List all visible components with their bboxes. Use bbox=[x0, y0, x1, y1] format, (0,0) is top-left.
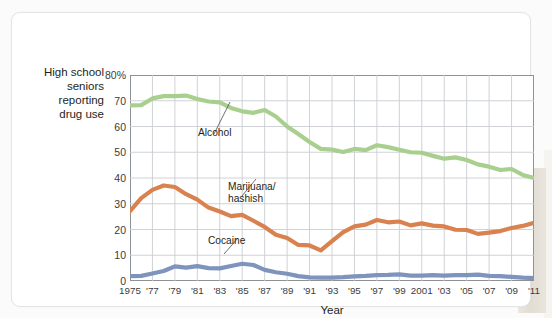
x-axis-tick-labels: 1975'77'79'81'83'85'87'89'91'93'95'97'99… bbox=[130, 285, 534, 301]
x-tick-label: '99 bbox=[393, 285, 406, 296]
y-axis-title-line-4: drug use bbox=[20, 107, 104, 121]
y-axis-title: High school seniors reporting drug use bbox=[20, 65, 104, 121]
y-tick-label: 20 bbox=[114, 224, 126, 236]
series-label-cocaine: Cocaine bbox=[208, 235, 245, 247]
x-tick-label: 2001 bbox=[411, 285, 433, 296]
figure-card: High school seniors reporting drug use 0… bbox=[11, 12, 531, 307]
x-tick-label: '03 bbox=[438, 285, 451, 296]
x-tick-label: 1975 bbox=[119, 285, 141, 296]
x-tick-label: '09 bbox=[505, 285, 518, 296]
x-tick-label: '89 bbox=[281, 285, 294, 296]
y-axis-title-line-3: reporting bbox=[20, 93, 104, 107]
y-axis-title-line-1: High school bbox=[20, 65, 104, 79]
y-axis-title-line-2: seniors bbox=[20, 79, 104, 93]
x-tick-label: '05 bbox=[460, 285, 473, 296]
figure-root: High school seniors reporting drug use 0… bbox=[0, 0, 552, 318]
x-tick-label: '07 bbox=[483, 285, 496, 296]
x-tick-label: '11 bbox=[528, 285, 540, 296]
y-tick-label: 10 bbox=[114, 249, 126, 261]
annotation-leader-lines bbox=[130, 75, 534, 281]
y-tick-label: 40 bbox=[114, 172, 126, 184]
x-tick-label: '79 bbox=[168, 285, 181, 296]
series-label-marijuana-line-1: Marijuana/ bbox=[228, 181, 276, 193]
x-tick-label: '91 bbox=[303, 285, 316, 296]
x-axis-title: Year bbox=[130, 304, 534, 316]
x-tick-label: '95 bbox=[348, 285, 361, 296]
y-tick-label: 70 bbox=[114, 95, 126, 107]
y-tick-label: 50 bbox=[114, 146, 126, 158]
series-label-alcohol: Alcohol bbox=[198, 127, 231, 139]
x-tick-label: '97 bbox=[370, 285, 383, 296]
y-tick-label: 30 bbox=[114, 198, 126, 210]
x-tick-label: '81 bbox=[191, 285, 204, 296]
x-tick-label: '87 bbox=[258, 285, 271, 296]
x-tick-label: '83 bbox=[213, 285, 226, 296]
plot-area bbox=[130, 75, 534, 281]
x-tick-label: '85 bbox=[236, 285, 249, 296]
y-tick-label: 60 bbox=[114, 121, 126, 133]
x-tick-label: '77 bbox=[146, 285, 159, 296]
series-label-marijuana-line-2: hashish bbox=[228, 193, 276, 205]
series-label-marijuana: Marijuana/ hashish bbox=[228, 181, 276, 205]
y-tick-label: 80% bbox=[105, 69, 126, 81]
x-tick-label: '93 bbox=[326, 285, 339, 296]
y-axis-tick-labels: 01020304050607080% bbox=[98, 75, 126, 281]
